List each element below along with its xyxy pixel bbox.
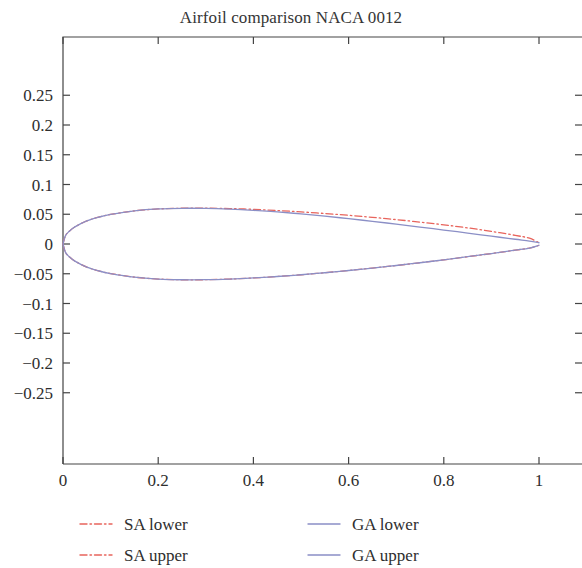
y-tick-label: 0.05 bbox=[23, 205, 53, 224]
axis-frame-line bbox=[63, 37, 582, 464]
airfoil-comparison-figure: Airfoil comparison NACA 0012 0.250.20.15… bbox=[0, 0, 582, 568]
x-tick-label: 1 bbox=[535, 471, 544, 490]
x-tick-label: 0.4 bbox=[243, 471, 265, 490]
plot-area: 0.250.20.150.10.050−0.05−0.1−0.15−0.2−0.… bbox=[0, 0, 582, 500]
legend-label: GA lower bbox=[352, 515, 419, 534]
legend-label: SA upper bbox=[124, 546, 188, 565]
series-curve bbox=[63, 244, 539, 280]
data-series-group bbox=[63, 208, 539, 280]
y-tick-label: −0.2 bbox=[22, 354, 53, 373]
series-curve bbox=[63, 208, 539, 244]
x-tick-label: 0 bbox=[59, 471, 68, 490]
y-tick-label: 0.1 bbox=[32, 176, 53, 195]
y-tick-label: 0.15 bbox=[23, 146, 53, 165]
y-tick-label: −0.1 bbox=[22, 295, 53, 314]
y-tick-label: −0.25 bbox=[14, 384, 53, 403]
legend-label: GA upper bbox=[352, 546, 419, 565]
x-axis-ticks: 00.20.40.60.81 bbox=[59, 37, 544, 490]
x-tick-label: 0.2 bbox=[148, 471, 169, 490]
y-tick-label: −0.15 bbox=[14, 324, 53, 343]
legend-label: SA lower bbox=[124, 515, 188, 534]
chart-legend: SA lowerGA lowerSA upperGA upper bbox=[0, 498, 582, 568]
y-axis-ticks: 0.250.20.150.10.050−0.05−0.1−0.15−0.2−0.… bbox=[14, 86, 582, 403]
y-tick-label: 0 bbox=[45, 235, 54, 254]
axis-frame bbox=[63, 37, 582, 464]
y-tick-label: 0.25 bbox=[23, 86, 53, 105]
x-tick-label: 0.8 bbox=[433, 471, 454, 490]
y-tick-label: 0.2 bbox=[32, 116, 53, 135]
y-tick-label: −0.05 bbox=[14, 265, 53, 284]
x-tick-label: 0.6 bbox=[338, 471, 359, 490]
